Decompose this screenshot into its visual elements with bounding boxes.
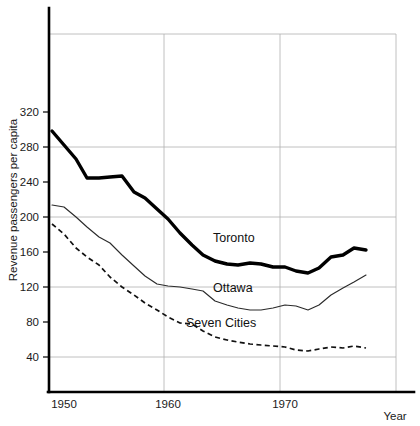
line-chart-svg: 40 80 120 160 200 240 280 320 1950 1960 … xyxy=(0,0,420,426)
x-tick-label-1950: 1950 xyxy=(51,398,77,410)
y-axis-tick-labels: 40 80 120 160 200 240 280 320 xyxy=(20,106,39,363)
series-label-ottawa: Ottawa xyxy=(213,281,253,295)
vertical-gridlines xyxy=(164,34,396,392)
x-tick-label-1960: 1960 xyxy=(155,398,181,410)
y-tick-label-80: 80 xyxy=(26,316,39,328)
y-tick-label-160: 160 xyxy=(20,246,39,258)
x-axis-title: Year xyxy=(383,410,406,422)
x-axis-tick-labels: 1950 1960 1970 xyxy=(51,398,298,410)
y-tick-label-240: 240 xyxy=(20,176,39,188)
series-line-toronto xyxy=(52,131,366,273)
y-tick-label-280: 280 xyxy=(20,141,39,153)
y-tick-label-120: 120 xyxy=(20,281,39,293)
y-axis-title: Revenue passengers per capita xyxy=(7,118,19,281)
chart-figure: 40 80 120 160 200 240 280 320 1950 1960 … xyxy=(0,0,420,426)
series-label-toronto: Toronto xyxy=(213,231,255,245)
axis-spines xyxy=(48,8,414,392)
y-tick-label-200: 200 xyxy=(20,211,39,223)
y-tick-label-320: 320 xyxy=(20,106,39,118)
series-label-seven-cities: Seven Cities xyxy=(186,316,256,330)
y-tick-label-40: 40 xyxy=(26,351,39,363)
series-line-seven-cities xyxy=(52,224,366,351)
x-tick-label-1970: 1970 xyxy=(272,398,298,410)
horizontal-gridlines xyxy=(49,34,396,357)
